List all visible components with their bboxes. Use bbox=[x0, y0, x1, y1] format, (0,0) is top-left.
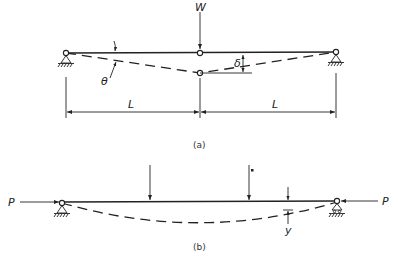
axial-label-right: P bbox=[382, 195, 389, 208]
hinge-center-a bbox=[197, 50, 202, 55]
beam-b bbox=[62, 201, 337, 202]
beam-pointer-icon bbox=[114, 41, 115, 51]
load-tag-mark bbox=[251, 169, 254, 172]
pin-support-left-b-icon bbox=[54, 206, 70, 218]
deflected-curve-b bbox=[62, 202, 337, 223]
pin-support-left-a-icon bbox=[58, 56, 74, 68]
axial-label-left: P bbox=[8, 196, 15, 209]
figure-b: P P y (b) bbox=[8, 165, 389, 252]
angle-label-theta: θ bbox=[101, 75, 108, 88]
roller-support-right-b-icon bbox=[329, 204, 345, 218]
caption-a: (a) bbox=[193, 140, 206, 150]
caption-b: (b) bbox=[193, 242, 206, 252]
pin-support-right-a-icon bbox=[328, 55, 344, 67]
deflection-label-y: y bbox=[284, 224, 292, 237]
angle-pointer-icon bbox=[110, 62, 116, 78]
span-label-left: L bbox=[128, 98, 134, 111]
span-label-right: L bbox=[272, 98, 278, 111]
load-label-w: W bbox=[195, 1, 207, 14]
figure-a: W θ δ L L bbox=[58, 1, 344, 150]
deflection-label-delta: δ bbox=[234, 57, 241, 70]
